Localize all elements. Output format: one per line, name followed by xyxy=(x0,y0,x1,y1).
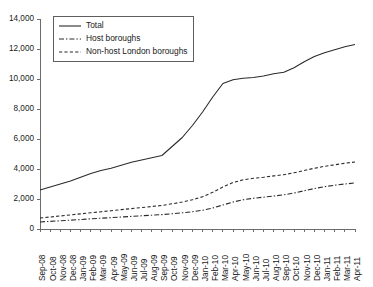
x-tick-label: Aug-09 xyxy=(150,254,159,281)
x-tick-label: Jul-10 xyxy=(262,258,271,281)
x-tick-label: May-09 xyxy=(120,253,129,281)
series-line-0 xyxy=(40,45,355,191)
x-tick-label: Oct-10 xyxy=(292,256,301,281)
y-tick-label: 10,000 xyxy=(9,74,34,83)
y-tick-label: 14,000 xyxy=(9,14,34,23)
x-tick-label: Apr-10 xyxy=(231,256,240,281)
y-tick-label: 0 xyxy=(29,224,34,233)
x-tick-label: Dec-09 xyxy=(191,254,200,281)
legend-label-0: Total xyxy=(86,20,104,30)
x-tick-label: Feb-09 xyxy=(89,255,98,281)
chart-container: 02,0004,0006,0008,00010,00012,00014,000 … xyxy=(0,0,373,287)
series-line-2 xyxy=(40,162,355,218)
y-tick-label: 2,000 xyxy=(14,194,35,203)
y-axis-group: 02,0004,0006,0008,00010,00012,00014,000 xyxy=(9,14,40,233)
x-tick-label: Jan-11 xyxy=(323,256,332,281)
y-axis-ticks: 02,0004,0006,0008,00010,00012,00014,000 xyxy=(9,14,40,233)
x-axis-labels: Sep-08Oct-08Nov-08Dec-08Jan-09Feb-09Mar-… xyxy=(38,253,362,281)
x-tick-label: Sep-10 xyxy=(282,254,291,281)
x-tick-label: Nov-08 xyxy=(59,254,68,281)
series-line-1 xyxy=(40,183,355,222)
x-tick-label: Jan-09 xyxy=(79,256,88,281)
x-tick-label: Nov-09 xyxy=(181,254,190,281)
x-tick-label: Mar-10 xyxy=(221,255,230,281)
y-tick-label: 4,000 xyxy=(14,164,35,173)
legend-label-1: Host boroughs xyxy=(86,33,140,43)
y-tick-label: 6,000 xyxy=(14,134,35,143)
legend-label-2: Non-host London boroughs xyxy=(86,46,188,56)
x-tick-label: Oct-08 xyxy=(49,256,58,281)
x-tick-label: Jun-10 xyxy=(252,256,261,281)
chart-legend: TotalHost boroughsNon-host London boroug… xyxy=(53,16,193,61)
y-tick-label: 8,000 xyxy=(14,104,35,113)
x-tick-label: Oct-09 xyxy=(170,256,179,281)
series-lines xyxy=(40,45,355,222)
x-tick-label: Apr-09 xyxy=(110,256,119,281)
x-tick-label: Jun-09 xyxy=(130,256,139,281)
x-tick-label: May-10 xyxy=(242,253,251,281)
y-tick-label: 12,000 xyxy=(9,44,34,53)
x-tick-label: Jul-09 xyxy=(140,258,149,281)
x-tick-label: Jan-10 xyxy=(201,256,210,281)
x-tick-label: Nov-10 xyxy=(303,254,312,281)
x-tick-label: Apr-11 xyxy=(353,257,362,281)
line-chart: 02,0004,0006,0008,00010,00012,00014,000 … xyxy=(0,0,373,287)
x-tick-label: Mar-09 xyxy=(99,255,108,281)
x-tick-label: Feb-11 xyxy=(333,255,342,281)
x-axis-group: Sep-08Oct-08Nov-08Dec-08Jan-09Feb-09Mar-… xyxy=(38,229,362,281)
x-tick-label: Dec-10 xyxy=(313,254,322,281)
x-tick-label: Aug-10 xyxy=(272,254,281,281)
x-tick-label: Feb-10 xyxy=(211,255,220,281)
x-tick-label: Sep-08 xyxy=(38,254,47,281)
x-tick-label: Sep-09 xyxy=(160,254,169,281)
x-tick-label: Dec-08 xyxy=(69,254,78,281)
x-tick-label: Mar-11 xyxy=(343,255,352,281)
